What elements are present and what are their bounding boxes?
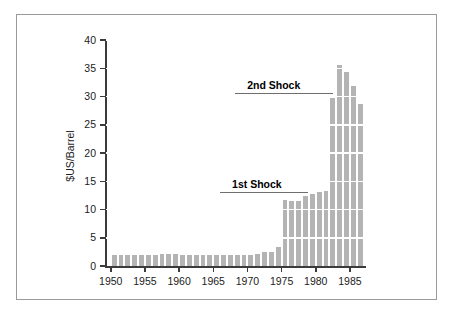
y-tick-mark bbox=[100, 181, 105, 183]
x-tick-mark bbox=[281, 267, 283, 272]
bar bbox=[269, 252, 274, 266]
bar bbox=[166, 254, 171, 266]
bar bbox=[351, 86, 356, 266]
x-tick-mark bbox=[349, 267, 351, 272]
gridline bbox=[106, 209, 365, 211]
bar bbox=[132, 255, 137, 266]
bar bbox=[283, 200, 288, 266]
bar bbox=[248, 255, 253, 266]
y-tick-label: 30 bbox=[52, 91, 96, 101]
x-tick-label: 1985 bbox=[327, 275, 373, 287]
annotation-label: 2nd Shock bbox=[247, 79, 300, 91]
gridline bbox=[106, 152, 365, 154]
annotation-label: 1st Shock bbox=[232, 178, 282, 190]
y-tick-mark bbox=[100, 68, 105, 70]
y-tick-label-text: 30 bbox=[56, 91, 96, 101]
y-tick-label-text: 20 bbox=[56, 148, 96, 158]
bar bbox=[146, 255, 151, 266]
bar bbox=[289, 201, 294, 266]
bar bbox=[194, 255, 199, 266]
bar bbox=[221, 255, 226, 266]
annotation-line bbox=[220, 192, 308, 194]
bar bbox=[358, 104, 363, 266]
y-tick-label: 20 bbox=[52, 148, 96, 158]
y-tick-mark bbox=[100, 152, 105, 154]
bar bbox=[310, 194, 315, 266]
gridline bbox=[106, 124, 365, 126]
y-tick-mark bbox=[100, 96, 105, 98]
bar bbox=[317, 192, 322, 266]
bar bbox=[112, 255, 117, 266]
y-tick-label-text: 35 bbox=[56, 63, 96, 73]
y-tick-mark bbox=[100, 237, 105, 239]
y-tick-label-text: 25 bbox=[56, 119, 96, 129]
y-tick-label: 25 bbox=[52, 119, 96, 129]
annotation-line bbox=[235, 93, 333, 95]
bar bbox=[214, 255, 219, 266]
y-tick-label-text: 0 bbox=[56, 261, 96, 271]
x-tick-mark bbox=[213, 267, 215, 272]
gridline bbox=[106, 68, 365, 70]
gridline bbox=[106, 237, 365, 239]
bar bbox=[255, 254, 260, 266]
bar bbox=[187, 255, 192, 266]
bar bbox=[276, 247, 281, 266]
bar bbox=[153, 255, 158, 266]
x-tick-mark bbox=[247, 267, 249, 272]
y-tick-label: 40 bbox=[52, 35, 96, 45]
y-tick-label-text: 10 bbox=[56, 204, 96, 214]
bar bbox=[139, 255, 144, 266]
y-tick-label-text: 15 bbox=[56, 176, 96, 186]
bar bbox=[173, 254, 178, 266]
bar bbox=[180, 255, 185, 266]
y-tick-mark bbox=[100, 265, 105, 267]
x-tick-mark bbox=[144, 267, 146, 272]
bar bbox=[296, 201, 301, 266]
x-tick-mark bbox=[315, 267, 317, 272]
plot-area bbox=[106, 40, 365, 266]
bar bbox=[235, 255, 240, 266]
bar bbox=[201, 255, 206, 266]
y-tick-label-text: 5 bbox=[56, 232, 96, 242]
y-tick-label: 35 bbox=[52, 63, 96, 73]
bar bbox=[125, 255, 130, 266]
bar bbox=[324, 191, 329, 266]
bar bbox=[119, 255, 124, 266]
figure-canvas: $US/Barrel 0510152025303540 195019551960… bbox=[0, 0, 453, 316]
bar bbox=[228, 255, 233, 266]
y-tick-label: 0 bbox=[52, 261, 96, 271]
gridline bbox=[106, 39, 365, 41]
y-tick-label-text: 40 bbox=[56, 35, 96, 45]
bar bbox=[262, 252, 267, 266]
y-tick-label: 5 bbox=[52, 232, 96, 242]
y-tick-mark bbox=[100, 124, 105, 126]
x-tick-mark bbox=[178, 267, 180, 272]
y-tick-label: 15 bbox=[52, 176, 96, 186]
bar bbox=[303, 196, 308, 266]
y-tick-mark bbox=[100, 39, 105, 41]
bar bbox=[207, 255, 212, 266]
y-tick-mark bbox=[100, 209, 105, 211]
bar bbox=[242, 255, 247, 266]
y-tick-label: 10 bbox=[52, 204, 96, 214]
gridline bbox=[106, 96, 365, 98]
bar bbox=[160, 254, 165, 266]
x-tick-mark bbox=[110, 267, 112, 272]
